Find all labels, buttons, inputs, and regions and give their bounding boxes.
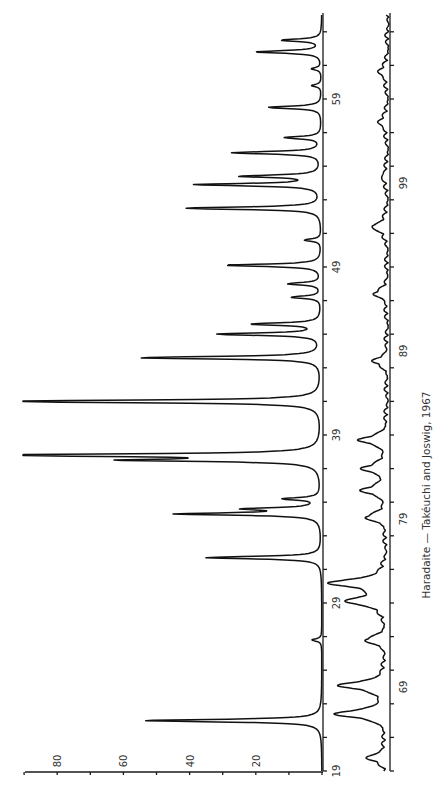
tick-label: 20	[251, 755, 262, 768]
tick-label: 79	[398, 513, 409, 526]
intensity-tick-labels: 20406080	[52, 755, 262, 768]
main-diffraction-trace	[23, 15, 322, 771]
tick-label: 59	[331, 93, 342, 106]
main-2theta-tick-labels: 1929394959	[331, 93, 342, 778]
tick-label: 69	[398, 681, 409, 694]
tick-label: 99	[398, 177, 409, 190]
continuation-diffraction-trace	[328, 15, 389, 771]
tick-label: 40	[185, 755, 196, 768]
continuation-panel: 69798999	[328, 13, 409, 771]
main-panel: 1929394959	[23, 13, 342, 777]
intensity-axis: 20406080	[24, 755, 323, 775]
chart-caption: Haradaite — Takéuchi and Joswig, 1967	[420, 391, 432, 598]
tick-label: 39	[331, 429, 342, 442]
diffraction-chart: 1929394959 20406080 69798999 Haradaite —…	[0, 0, 441, 797]
tick-label: 89	[398, 345, 409, 358]
continuation-2theta-tick-labels: 69798999	[398, 177, 409, 694]
tick-label: 80	[52, 755, 63, 768]
tick-label: 29	[331, 597, 342, 610]
tick-label: 49	[331, 261, 342, 274]
tick-label: 19	[331, 765, 342, 778]
tick-label: 60	[118, 755, 129, 768]
